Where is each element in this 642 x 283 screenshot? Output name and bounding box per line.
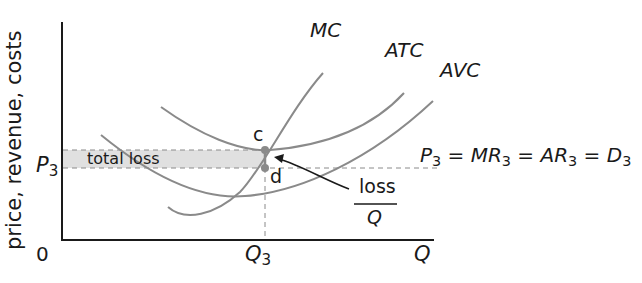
y-axis-label: price, revenue, costs — [2, 31, 26, 250]
point-d-label: d — [270, 167, 282, 186]
p3-subscript: 3 — [49, 162, 59, 180]
mc-label: MC — [310, 20, 341, 40]
point-c — [261, 146, 269, 154]
origin-label: 0 — [36, 244, 49, 264]
point-d — [261, 164, 269, 172]
eq-p: P — [420, 143, 432, 167]
demand-line-label: P3 = MR3 = AR3 = D3 — [420, 145, 631, 168]
atc-curve — [161, 93, 404, 150]
arrow-head-icon — [274, 154, 284, 163]
total-loss-label: total loss — [87, 151, 160, 167]
x-axis-label: Q — [414, 244, 431, 265]
eq-ar-sub: 3 — [568, 153, 577, 169]
q3-label: Q3 — [245, 244, 271, 268]
loss-arrow — [279, 159, 349, 189]
eq-sep: = — [441, 143, 470, 167]
eq-mr-sub: 3 — [502, 153, 511, 169]
q3-letter: Q — [245, 242, 262, 266]
eq-d: D — [607, 143, 622, 167]
mc-curve — [168, 73, 323, 215]
eq-sep: = — [511, 143, 540, 167]
eq-sep: = — [577, 143, 606, 167]
diagram-canvas — [0, 0, 642, 283]
q3-subscript: 3 — [262, 251, 272, 269]
eq-mr: MR — [471, 143, 502, 167]
p3-label: P3 — [36, 155, 58, 179]
p3-letter: P — [36, 153, 49, 177]
atc-label: ATC — [385, 40, 423, 60]
eq-ar: AR — [541, 143, 569, 167]
eq-p-sub: 3 — [432, 153, 441, 169]
loss-denominator: Q — [367, 208, 382, 227]
avc-label: AVC — [440, 60, 480, 80]
point-c-label: c — [253, 125, 263, 144]
loss-numerator: loss — [359, 177, 396, 196]
eq-d-sub: 3 — [622, 153, 631, 169]
